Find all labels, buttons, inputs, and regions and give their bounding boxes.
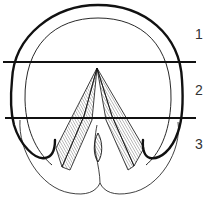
zone-label-3: 3 (195, 137, 203, 151)
hoof-diagram (0, 0, 207, 199)
zone-label-2: 2 (195, 83, 203, 97)
zone-label-1: 1 (195, 27, 203, 41)
